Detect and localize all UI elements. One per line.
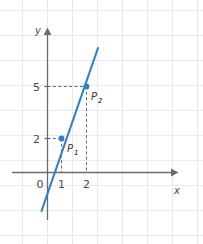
y-tick-label-2: 2: [33, 133, 40, 146]
data-point-p2: [84, 84, 90, 90]
coordinate-plot-figure: 5 2 0 1 2 y x P 1 P 2: [0, 0, 203, 244]
y-axis-label: y: [34, 25, 42, 36]
point-label-p2-base: P: [91, 91, 98, 102]
plot-canvas: 5 2 0 1 2 y x P 1 P 2: [0, 0, 203, 244]
point-label-p1-subscript: 1: [74, 149, 78, 157]
x-tick-label-2: 2: [83, 178, 90, 191]
data-point-p1: [59, 136, 65, 142]
y-tick-label-5: 5: [33, 81, 40, 94]
point-label-p2-subscript: 2: [98, 97, 103, 105]
point-label-p1-base: P: [67, 143, 74, 154]
x-tick-label-1: 1: [58, 178, 65, 191]
origin-label: 0: [37, 178, 44, 191]
x-axis-label: x: [173, 185, 180, 196]
